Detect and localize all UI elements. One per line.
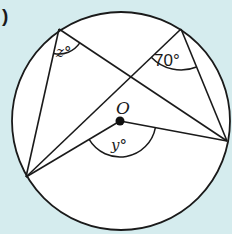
angle-label-z: z° — [55, 43, 71, 61]
center-label: O — [116, 98, 130, 118]
angle-label-y: y° — [110, 136, 127, 154]
part-marker: ) — [2, 5, 8, 26]
angle-label-70: 70° — [154, 51, 180, 70]
circle-theorem-diagram: ) O z° 70° y° — [0, 0, 232, 234]
